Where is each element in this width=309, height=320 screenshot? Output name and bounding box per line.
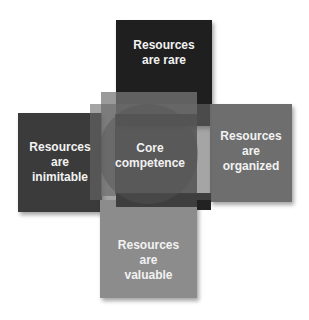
label-core-line1: Core: [106, 141, 194, 156]
label-inimitable-line3: inimitable: [18, 170, 102, 185]
label-rare-line2: are rare: [116, 53, 212, 68]
label-organized: Resources are organized: [210, 129, 292, 174]
label-organized-line3: organized: [210, 159, 292, 174]
label-inimitable-line1: Resources: [18, 140, 102, 155]
label-inimitable: Resources are inimitable: [18, 140, 102, 185]
label-valuable-line2: are: [100, 253, 197, 268]
label-core-line2: competence: [106, 156, 194, 171]
label-valuable-line3: valuable: [100, 268, 197, 283]
label-organized-line2: are: [210, 144, 292, 159]
overlap-dark-corner: [197, 200, 211, 210]
label-inimitable-line2: are: [18, 155, 102, 170]
label-rare: Resources are rare: [116, 38, 212, 68]
label-core-competence: Core competence: [106, 141, 194, 171]
label-valuable: Resources are valuable: [100, 238, 197, 283]
label-organized-line1: Resources: [210, 129, 292, 144]
label-valuable-line1: Resources: [100, 238, 197, 253]
label-rare-line1: Resources: [116, 38, 212, 53]
